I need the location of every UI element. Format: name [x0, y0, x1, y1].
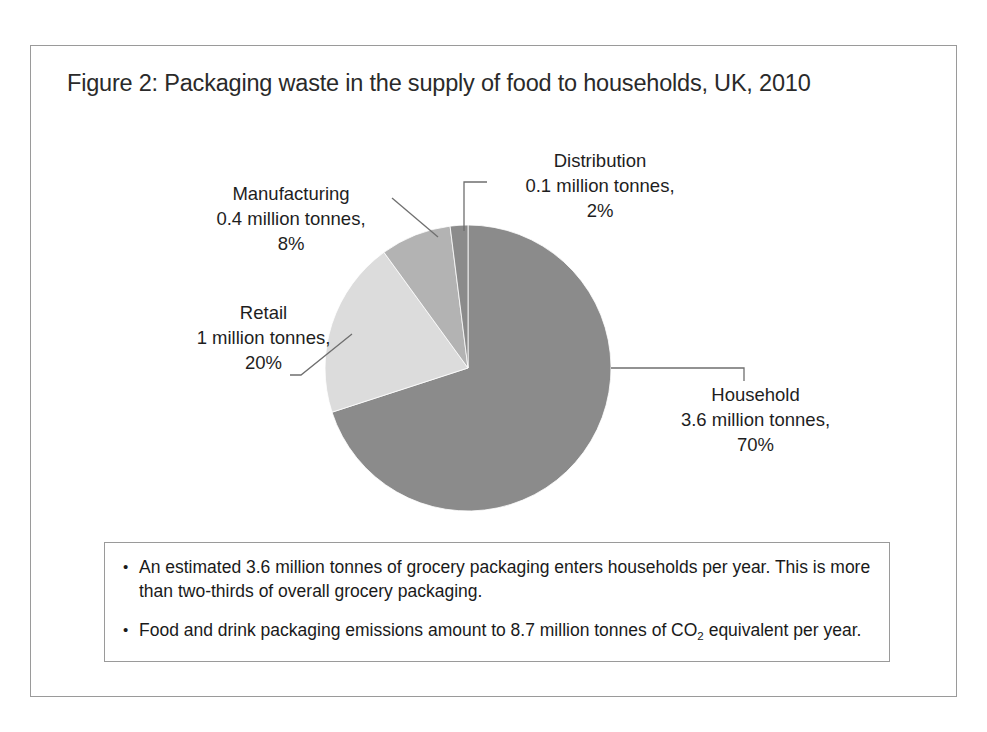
- pie-label-household-percent: 70%: [648, 432, 863, 457]
- pie-label-retail: Retail 1 million tonnes, 20%: [176, 300, 351, 375]
- callout-bullet-item: • An estimated 3.6 million tonnes of gro…: [123, 555, 871, 603]
- pie-label-household: Household 3.6 million tonnes, 70%: [648, 382, 863, 457]
- figure-page: Figure 2: Packaging waste in the supply …: [0, 0, 987, 732]
- pie-chart-svg: [324, 224, 612, 512]
- pie-label-retail-percent: 20%: [176, 350, 351, 375]
- bullet-dot-icon: •: [123, 618, 139, 642]
- pie-label-distribution-name: Distribution: [500, 148, 700, 173]
- callout-bullet-2-tail: equivalent per year.: [704, 620, 862, 640]
- pie-label-distribution-percent: 2%: [500, 198, 700, 223]
- callout-bullet-2-main: Food and drink packaging emissions amoun…: [139, 620, 697, 640]
- figure-title: Figure 2: Packaging waste in the supply …: [67, 70, 927, 97]
- pie-label-manufacturing-percent: 8%: [186, 231, 396, 256]
- pie-label-distribution-value: 0.1 million tonnes,: [500, 173, 700, 198]
- pie-label-manufacturing-name: Manufacturing: [186, 181, 396, 206]
- key-findings-callout: • An estimated 3.6 million tonnes of gro…: [104, 542, 890, 662]
- pie-label-retail-name: Retail: [176, 300, 351, 325]
- callout-bullet-item: • Food and drink packaging emissions amo…: [123, 618, 871, 644]
- bullet-dot-icon: •: [123, 555, 139, 579]
- pie-label-retail-value: 1 million tonnes,: [176, 325, 351, 350]
- callout-bullet-text-2: Food and drink packaging emissions amoun…: [139, 618, 871, 644]
- callout-bullet-1-main: An estimated 3.6 million tonnes of groce…: [139, 557, 870, 601]
- pie-label-household-value: 3.6 million tonnes,: [648, 407, 863, 432]
- pie-label-household-name: Household: [648, 382, 863, 407]
- pie-chart: [324, 224, 612, 512]
- co2-subscript: 2: [697, 630, 703, 642]
- page-top-scan-artifact: [30, 0, 330, 14]
- pie-label-manufacturing: Manufacturing 0.4 million tonnes, 8%: [186, 181, 396, 256]
- pie-label-manufacturing-value: 0.4 million tonnes,: [186, 206, 396, 231]
- pie-label-distribution: Distribution 0.1 million tonnes, 2%: [500, 148, 700, 223]
- callout-bullet-text-1: An estimated 3.6 million tonnes of groce…: [139, 555, 871, 603]
